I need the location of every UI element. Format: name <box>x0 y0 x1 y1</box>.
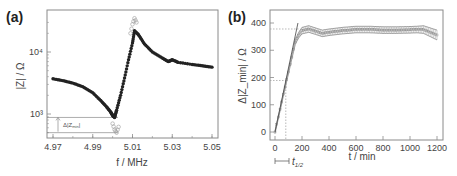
svg-text:5.03: 5.03 <box>163 142 181 152</box>
svg-text:4.97: 4.97 <box>44 142 62 152</box>
panel-a-filled-series <box>51 29 213 119</box>
svg-text:100: 100 <box>251 100 266 110</box>
panel-b-series <box>274 23 438 133</box>
t-half-label: t1/2 <box>292 156 304 168</box>
panel-a-x-axis: 4.974.995.015.035.05 <box>44 134 221 152</box>
t-half-marker: t1/2 <box>275 156 304 168</box>
svg-text:5.01: 5.01 <box>124 142 142 152</box>
panel-b-label: (b) <box>228 9 246 25</box>
panel-a-label: (a) <box>6 9 23 25</box>
panel-a-chart: 4.974.995.015.035.05 10³10⁴ Δ|Zmin| (a) … <box>6 9 221 168</box>
svg-text:4.99: 4.99 <box>84 142 102 152</box>
panel-a-y-axis: 10³10⁴ <box>29 22 51 132</box>
svg-text:5.05: 5.05 <box>203 142 221 152</box>
panel-a-frame <box>47 10 218 138</box>
svg-text:400: 400 <box>321 143 336 153</box>
svg-text:10⁴: 10⁴ <box>29 47 43 57</box>
svg-text:1200: 1200 <box>427 143 447 153</box>
svg-text:1000: 1000 <box>400 143 420 153</box>
panel-b-y-axis: 0100200300400 <box>251 18 274 137</box>
svg-text:800: 800 <box>375 143 390 153</box>
svg-text:400: 400 <box>251 18 266 28</box>
panel-a-xlabel: f / MHz <box>116 157 148 168</box>
svg-text:10³: 10³ <box>30 109 43 119</box>
panel-a-annotation: Δ|Zmin| <box>47 117 118 132</box>
panel-b-xlabel: t / min <box>348 151 375 162</box>
svg-text:200: 200 <box>294 143 309 153</box>
svg-text:Δ|Zmin|: Δ|Zmin| <box>63 122 81 129</box>
panel-b-chart: 020040060080010001200 0100200300400 (b) … <box>228 9 447 168</box>
panel-b-ylabel: Δ|Z_min| / Ω <box>237 48 248 104</box>
svg-text:0: 0 <box>261 127 266 137</box>
figure: 4.974.995.015.035.05 10³10⁴ Δ|Zmin| (a) … <box>0 0 457 176</box>
panel-a-ylabel: |Z| / Ω <box>15 62 26 90</box>
svg-text:300: 300 <box>251 45 266 55</box>
svg-text:200: 200 <box>251 73 266 83</box>
svg-text:0: 0 <box>272 143 277 153</box>
